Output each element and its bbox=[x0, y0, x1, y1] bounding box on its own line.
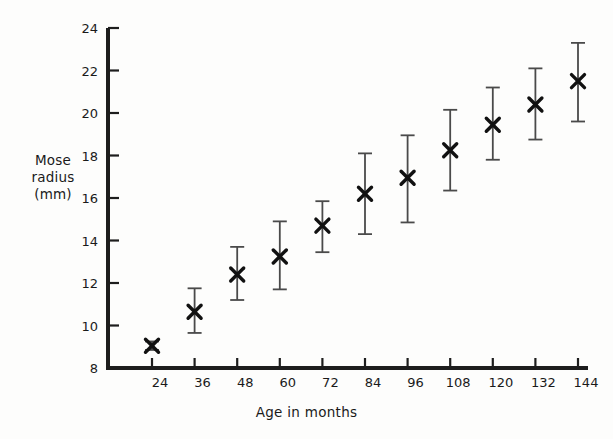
y-tick-label: 10 bbox=[62, 318, 98, 333]
x-tick-label: 24 bbox=[152, 375, 169, 390]
x-axis-label: Age in months bbox=[0, 404, 613, 420]
x-tick-label: 60 bbox=[280, 375, 297, 390]
data-point-group bbox=[273, 221, 287, 289]
data-point-group bbox=[145, 339, 159, 352]
y-tick-label: 8 bbox=[62, 361, 98, 376]
y-tick-label: 24 bbox=[62, 21, 98, 36]
data-series bbox=[145, 43, 585, 352]
x-tick-label: 96 bbox=[407, 375, 424, 390]
x-tick-label: 144 bbox=[574, 375, 599, 390]
x-tick-label: 36 bbox=[194, 375, 211, 390]
y-tick-label: 22 bbox=[62, 63, 98, 78]
y-axis-label-line-2: radius bbox=[14, 169, 92, 186]
data-point-group bbox=[315, 201, 329, 252]
x-tick-label: 72 bbox=[322, 375, 339, 390]
y-tick-label: 16 bbox=[62, 191, 98, 206]
x-tick-label: 132 bbox=[531, 375, 556, 390]
data-point-group bbox=[443, 110, 457, 191]
y-tick-label: 18 bbox=[62, 148, 98, 163]
y-tick-label: 20 bbox=[62, 106, 98, 121]
x-tick-label: 84 bbox=[365, 375, 382, 390]
data-point-group bbox=[486, 88, 500, 160]
y-tick-label: 12 bbox=[62, 276, 98, 291]
data-point-group bbox=[358, 153, 372, 234]
axis-spines bbox=[106, 28, 588, 370]
chart-figure: Mose radius (mm) Age in months 810121416… bbox=[0, 0, 613, 439]
data-point-group bbox=[571, 43, 585, 122]
x-tick-label: 48 bbox=[237, 375, 254, 390]
y-tick-label: 14 bbox=[62, 233, 98, 248]
data-point-group bbox=[230, 247, 244, 300]
data-point-group bbox=[188, 288, 202, 333]
x-tick-label: 120 bbox=[488, 375, 513, 390]
x-tick-label: 108 bbox=[446, 375, 471, 390]
data-point-group bbox=[401, 135, 415, 222]
data-point-group bbox=[528, 68, 542, 139]
